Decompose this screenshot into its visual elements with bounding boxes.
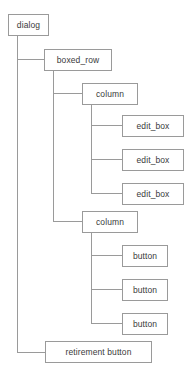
node-column-2[interactable]: column [82,211,138,233]
node-dialog-label: dialog [17,21,40,30]
connector-column-1-to-edit-box-1 [91,125,123,126]
connector-dialog-to-retirement [17,352,46,353]
node-button-3-label: button [133,320,157,329]
node-button-2-label: button [133,286,157,295]
node-retirement-button-label: retirement button [66,348,132,357]
connector-column-2-to-button-1 [91,255,123,256]
node-button-3[interactable]: button [122,313,168,335]
node-edit-box-2-label: edit_box [137,156,170,165]
node-button-1[interactable]: button [122,245,168,267]
connector-column-1-stem [91,104,92,194]
node-boxed-row[interactable]: boxed_row [44,49,112,71]
connector-column-2-stem [91,232,92,324]
connector-dialog-to-boxed-row [17,59,45,60]
node-column-1[interactable]: column [82,83,138,105]
node-retirement-button[interactable]: retirement button [45,341,152,363]
node-dialog[interactable]: dialog [8,14,49,36]
node-edit-box-1-label: edit_box [137,122,170,131]
node-edit-box-2[interactable]: edit_box [122,149,184,171]
connector-boxed-row-to-column-1 [53,93,83,94]
connector-boxed-row-to-column-2 [53,221,83,222]
connector-column-1-to-edit-box-3 [91,193,123,194]
node-button-1-label: button [133,252,157,261]
connector-column-2-to-button-2 [91,289,123,290]
connector-dialog-stem [17,35,18,353]
node-boxed-row-label: boxed_row [57,56,99,65]
node-edit-box-1[interactable]: edit_box [122,115,184,137]
node-edit-box-3[interactable]: edit_box [122,183,184,205]
tree-diagram-canvas: dialog boxed_row column edit_box edit_bo… [0,0,189,374]
node-column-1-label: column [96,90,124,99]
connector-column-1-to-edit-box-2 [91,159,123,160]
node-column-2-label: column [96,218,124,227]
node-edit-box-3-label: edit_box [137,190,170,199]
node-button-2[interactable]: button [122,279,168,301]
connector-column-2-to-button-3 [91,323,123,324]
